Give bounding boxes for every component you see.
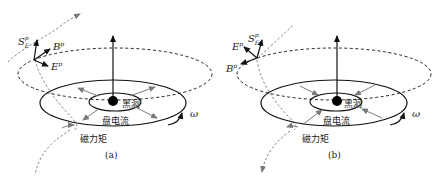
e-field-vector-arrow: [244, 47, 257, 58]
panel-b: SpE Ep Bp 黑洞 盘电流 磁力矩 ω (b): [225, 24, 431, 172]
b-field-vector-arrow: [34, 49, 50, 60]
torque-arrow: [62, 125, 74, 128]
omega-label: ω: [190, 108, 198, 119]
current-arrow: [83, 108, 100, 120]
poynting-label: SpE: [18, 34, 30, 49]
panel-caption: (a): [105, 150, 117, 160]
dashed-orbit: [18, 48, 212, 100]
current-arrow: [300, 86, 318, 95]
current-arrow: [355, 85, 375, 95]
disk-current-label: 盘电流: [323, 115, 350, 126]
b-field-label: Bp: [225, 62, 237, 74]
magnetic-torque-label: 磁力矩: [302, 133, 329, 144]
black-hole: [332, 96, 342, 106]
omega-label: ω: [412, 108, 420, 119]
black-hole-label: 黑洞: [344, 99, 362, 109]
panel-caption: (b): [328, 150, 341, 160]
e-field-label: Ep: [231, 40, 243, 52]
dashed-orbit: [237, 48, 431, 100]
black-hole-label: 黑洞: [122, 99, 140, 109]
field-line-tail: [35, 130, 70, 175]
panel-a: SpE Bp Ep 黑洞 盘电流 磁力矩 ω (a): [8, 14, 212, 175]
field-line-tail: [262, 131, 290, 172]
current-arrow: [78, 88, 98, 96]
current-arrow: [130, 87, 155, 96]
magnetic-torque-label: 磁力矩: [80, 133, 107, 144]
b-field-label: Bp: [52, 40, 64, 52]
torque-arrow: [287, 126, 298, 127]
black-hole: [108, 96, 118, 106]
diagram-canvas: SpE Bp Ep 黑洞 盘电流 磁力矩 ω (a): [0, 0, 442, 185]
b-field-vector-arrow: [241, 58, 257, 64]
current-arrow: [302, 110, 322, 125]
disk-current-label: 盘电流: [102, 115, 129, 126]
current-arrow: [362, 109, 382, 118]
e-field-label: Ep: [50, 60, 62, 72]
poynting-label: SpE: [248, 31, 260, 46]
